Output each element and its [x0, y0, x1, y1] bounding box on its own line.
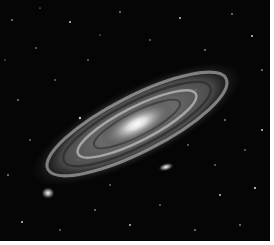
- satellite-galaxy: [157, 161, 175, 173]
- satellite-galaxy: [41, 187, 55, 199]
- galaxy: [16, 38, 259, 209]
- galaxy-photo: [0, 0, 270, 241]
- galaxy-image: [0, 0, 270, 241]
